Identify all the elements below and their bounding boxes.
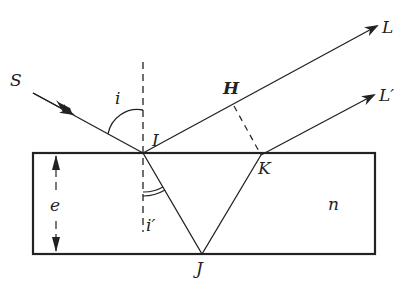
thin-film-diagram: S i I H L L′ K i′ e n J <box>0 0 410 288</box>
label-K: K <box>257 158 272 178</box>
label-I: I <box>151 130 159 150</box>
glass-slab <box>33 153 375 254</box>
diagram-canvas: S i I H L L′ K i′ e n J <box>0 0 410 288</box>
label-e: e <box>50 195 60 215</box>
label-i-prime: i′ <box>146 215 155 235</box>
label-L-prime: L′ <box>378 85 394 105</box>
label-n: n <box>328 194 339 214</box>
emergent-ray-L-prime <box>261 95 374 155</box>
label-i: i <box>115 88 120 108</box>
label-J: J <box>193 258 204 278</box>
wavefront-HK <box>234 106 261 155</box>
label-L: L <box>381 17 393 37</box>
angle-i-prime-arc <box>143 187 163 192</box>
angle-i-arc <box>108 109 143 134</box>
reflected-ray-L <box>143 26 377 153</box>
refracted-path <box>143 153 261 254</box>
label-S: S <box>10 70 22 90</box>
label-H: H <box>222 78 240 98</box>
